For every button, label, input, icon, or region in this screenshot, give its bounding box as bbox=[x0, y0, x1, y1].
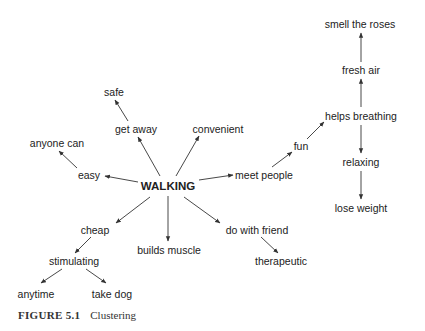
node-fun: fun bbox=[294, 140, 309, 152]
arrow-get-away-to-safe bbox=[115, 100, 128, 121]
arrow-walking-to-get-away bbox=[138, 137, 160, 176]
node-easy: easy bbox=[78, 169, 101, 181]
node-get-away: get away bbox=[115, 123, 158, 135]
arrow-stimulating-to-anytime bbox=[41, 269, 62, 283]
figure-caption: FIGURE 5.1Clustering bbox=[18, 309, 136, 321]
node-do-with-friend: do with friend bbox=[226, 224, 289, 236]
arrow-walking-to-meet-people bbox=[199, 175, 233, 180]
arrow-stimulating-to-take-dog bbox=[86, 269, 106, 283]
node-helps-breathing: helps breathing bbox=[325, 110, 397, 122]
node-lose-weight: lose weight bbox=[335, 202, 388, 214]
node-take-dog: take dog bbox=[92, 288, 132, 300]
node-anyone-can: anyone can bbox=[30, 137, 84, 149]
node-fresh-air: fresh air bbox=[342, 64, 380, 76]
cluster-diagram: WALKINGeasyanyone canget awaysafeconveni… bbox=[0, 0, 425, 331]
node-stimulating: stimulating bbox=[49, 255, 99, 267]
arrow-walking-to-easy bbox=[105, 176, 138, 182]
node-relaxing: relaxing bbox=[343, 156, 380, 168]
arrow-fun-to-helps-breathing bbox=[307, 122, 324, 139]
node-convenient: convenient bbox=[193, 123, 244, 135]
nodes-group: WALKINGeasyanyone canget awaysafeconveni… bbox=[18, 18, 397, 300]
arrow-walking-to-cheap bbox=[116, 197, 150, 223]
node-smell-the-roses: smell the roses bbox=[325, 18, 396, 30]
edges-group bbox=[41, 33, 361, 283]
figure-title: Clustering bbox=[90, 309, 136, 321]
node-safe: safe bbox=[104, 86, 124, 98]
arrow-cheap-to-stimulating bbox=[75, 237, 91, 253]
node-anytime: anytime bbox=[18, 288, 55, 300]
node-walking: WALKING bbox=[141, 180, 195, 192]
node-therapeutic: therapeutic bbox=[255, 255, 307, 267]
node-meet-people: meet people bbox=[235, 169, 293, 181]
node-builds-muscle: builds muscle bbox=[137, 244, 201, 256]
figure-label: FIGURE 5.1 bbox=[18, 309, 80, 321]
arrow-meet-people-to-fun bbox=[272, 152, 292, 167]
arrow-easy-to-anyone-can bbox=[59, 151, 77, 168]
arrow-walking-to-do-with-friend bbox=[184, 197, 220, 223]
arrow-do-with-friend-to-therapeutic bbox=[261, 237, 278, 253]
node-cheap: cheap bbox=[81, 224, 110, 236]
arrow-walking-to-convenient bbox=[176, 136, 199, 176]
